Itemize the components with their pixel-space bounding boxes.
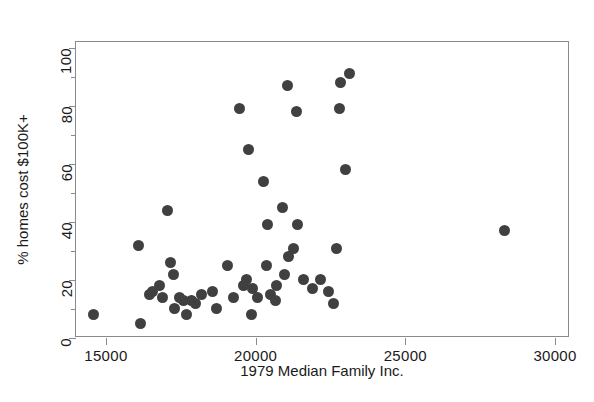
data-point xyxy=(157,292,168,303)
data-point xyxy=(298,274,309,285)
data-point xyxy=(252,292,263,303)
y-tick-label: 60 xyxy=(58,164,75,181)
data-point xyxy=(207,286,218,297)
y-tick-label: 100 xyxy=(58,48,75,74)
x-tick-major xyxy=(256,338,257,345)
data-point xyxy=(196,289,207,300)
data-point xyxy=(234,103,245,114)
data-point xyxy=(222,260,233,271)
data-point xyxy=(331,243,342,254)
data-point xyxy=(169,303,180,314)
data-point xyxy=(292,219,303,230)
data-point xyxy=(270,295,281,306)
data-point xyxy=(277,202,288,213)
y-tick-label: 80 xyxy=(58,106,75,123)
data-point xyxy=(168,269,179,280)
x-axis-title: 1979 Median Family Inc. xyxy=(75,362,569,379)
data-point xyxy=(323,286,334,297)
x-tick-major xyxy=(555,338,556,345)
x-tick-major xyxy=(106,338,107,345)
scatter-plot-figure: % homes cost $100K+ 020406080100 1500020… xyxy=(0,0,594,402)
data-point xyxy=(133,240,144,251)
y-tick-label: 20 xyxy=(58,280,75,297)
data-point xyxy=(154,280,165,291)
data-point xyxy=(307,283,318,294)
data-point xyxy=(258,176,269,187)
y-axis-title-text: % homes cost $100K+ xyxy=(14,114,31,265)
y-tick-label: 40 xyxy=(58,222,75,239)
data-point xyxy=(291,106,302,117)
data-point xyxy=(335,77,346,88)
data-point xyxy=(328,298,339,309)
data-point xyxy=(334,103,345,114)
data-point xyxy=(165,257,176,268)
data-point xyxy=(181,309,192,320)
data-point xyxy=(279,269,290,280)
data-point xyxy=(162,205,173,216)
data-point xyxy=(499,225,510,236)
data-point xyxy=(344,68,355,79)
y-axis-title: % homes cost $100K+ xyxy=(12,41,32,337)
data-point xyxy=(271,280,282,291)
data-point xyxy=(288,243,299,254)
data-point xyxy=(340,164,351,175)
data-point xyxy=(282,80,293,91)
data-point xyxy=(135,318,146,329)
y-tick-label: 0 xyxy=(58,338,75,347)
data-point xyxy=(246,309,257,320)
data-point xyxy=(261,260,272,271)
data-point xyxy=(88,309,99,320)
data-point xyxy=(243,144,254,155)
data-points-layer xyxy=(76,42,568,336)
plot-area: 020406080100 15000200002500030000 xyxy=(75,41,569,337)
data-point xyxy=(211,303,222,314)
x-tick-major xyxy=(405,338,406,345)
data-point xyxy=(262,219,273,230)
data-point xyxy=(228,292,239,303)
data-point xyxy=(315,274,326,285)
